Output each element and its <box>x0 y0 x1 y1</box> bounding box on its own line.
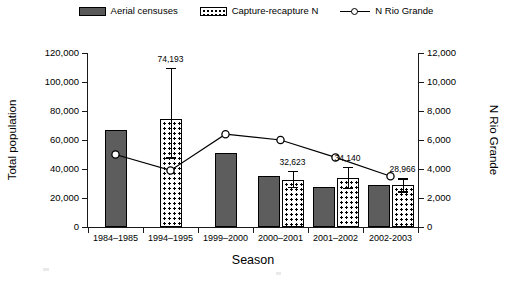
y-tick-label: 40,000 <box>50 164 79 174</box>
y-tick-label: 60,000 <box>50 135 79 145</box>
y2-tick-label: 4,000 <box>427 164 451 174</box>
legend-swatch-solid-icon <box>79 7 106 16</box>
chart-root: Aerial censuses Capture-recapture N N Ri… <box>0 0 512 283</box>
legend-item-n-rio-grande: N Rio Grande <box>340 6 433 16</box>
x-tick <box>253 227 254 233</box>
chart-legend: Aerial censuses Capture-recapture N N Ri… <box>0 2 512 20</box>
y-tick-label: 100,000 <box>45 77 79 87</box>
data-label: 32,623 <box>280 158 306 167</box>
line-marker <box>277 136 284 143</box>
scan-artifact <box>43 268 49 271</box>
x-axis-title: Season <box>88 253 418 267</box>
y-axis-title: Total population <box>5 53 19 227</box>
x-tick <box>143 227 144 233</box>
y2-tick <box>418 53 424 54</box>
x-tick-label: 2002-2003 <box>369 233 412 243</box>
y-tick-label: 120,000 <box>45 48 79 58</box>
plot-area: 120,000100,00080,00060,00040,00020,0000 … <box>88 53 418 227</box>
legend-item-aerial-censuses: Aerial censuses <box>79 6 178 16</box>
y2-tick <box>418 140 424 141</box>
y2-tick <box>418 111 424 112</box>
x-tick-label: 1994–1995 <box>148 233 193 243</box>
y2-tick-label: 8,000 <box>427 106 451 116</box>
y2-axis-title: N Rio Grande <box>486 53 502 227</box>
y-tick-label: 20,000 <box>50 193 79 203</box>
data-label: 74,193 <box>158 55 184 64</box>
line-series-layer <box>88 53 418 227</box>
data-label: 34,140 <box>335 154 361 163</box>
legend-label-n-rio-grande: N Rio Grande <box>375 6 433 16</box>
y2-tick <box>418 198 424 199</box>
x-tick <box>418 227 419 233</box>
line-marker <box>167 167 174 174</box>
y2-tick-label: 12,000 <box>427 48 456 58</box>
y-tick-label: 0 <box>74 222 79 232</box>
x-tick <box>88 227 89 233</box>
y2-tick <box>418 169 424 170</box>
y2-tick-label: 2,000 <box>427 193 451 203</box>
y2-axis-title-text: N Rio Grande <box>488 105 500 175</box>
y2-tick-label: 10,000 <box>427 77 456 87</box>
x-tick <box>308 227 309 233</box>
legend-label-capture-recapture: Capture-recapture N <box>232 6 319 16</box>
y-tick-label: 80,000 <box>50 106 79 116</box>
legend-item-capture-recapture: Capture-recapture N <box>200 6 319 16</box>
y2-tick-label: 6,000 <box>427 135 451 145</box>
y-axis-title-text: Total population <box>6 100 18 181</box>
x-tick-label: 2000–2001 <box>258 233 303 243</box>
legend-label-aerial-censuses: Aerial censuses <box>111 6 178 16</box>
x-tick <box>363 227 364 233</box>
scan-artifact <box>276 272 281 275</box>
y2-tick <box>418 82 424 83</box>
x-tick <box>198 227 199 233</box>
x-tick-label: 1984–1985 <box>93 233 138 243</box>
x-tick-label: 1999–2000 <box>203 233 248 243</box>
line-marker <box>222 131 229 138</box>
line-marker <box>112 151 119 158</box>
y2-tick-label: 0 <box>427 222 432 232</box>
data-label: 28,966 <box>390 165 416 174</box>
legend-swatch-dotted-icon <box>200 7 227 16</box>
x-tick-label: 2001–2002 <box>313 233 358 243</box>
legend-line-marker-icon <box>340 7 370 16</box>
